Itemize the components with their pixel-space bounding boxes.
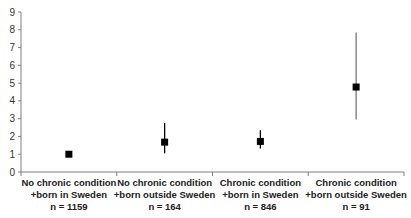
y-tick-label: 5 <box>9 78 15 89</box>
svg-text:n = 164: n = 164 <box>148 201 181 212</box>
y-tick-label: 6 <box>9 60 15 71</box>
y-tick-label: 0 <box>9 167 15 178</box>
y-tick-label: 9 <box>9 7 15 18</box>
y-tick-label: 1 <box>9 149 15 160</box>
svg-text:n = 846: n = 846 <box>244 201 276 212</box>
svg-text:Chronic condition: Chronic condition <box>315 177 396 188</box>
y-tick-label: 8 <box>9 24 15 35</box>
svg-text:+born outside Sweden: +born outside Sweden <box>305 189 407 200</box>
x-category-label: No chronic condition+born outside Sweden… <box>114 177 216 212</box>
svg-text:+born in Sweden: +born in Sweden <box>222 189 298 200</box>
data-point <box>161 123 168 153</box>
svg-text:No chronic condition: No chronic condition <box>117 177 212 188</box>
svg-text:+born outside Sweden: +born outside Sweden <box>114 189 216 200</box>
point-marker <box>161 139 168 146</box>
svg-text:Chronic condition: Chronic condition <box>220 177 301 188</box>
x-axis <box>21 172 404 176</box>
data-point <box>257 130 264 148</box>
error-bar-chart: 0123456789 No chronic condition+born in … <box>0 0 411 218</box>
point-marker <box>257 138 264 145</box>
x-axis-labels: No chronic condition+born in Swedenn = 1… <box>21 177 407 212</box>
x-category-label: No chronic condition+born in Swedenn = 1… <box>21 177 116 212</box>
y-tick-label: 2 <box>9 131 15 142</box>
data-point <box>65 151 72 158</box>
y-tick-label: 7 <box>9 42 15 53</box>
y-tick-label: 4 <box>9 95 15 106</box>
y-tick-label: 3 <box>9 113 15 124</box>
point-marker <box>65 151 72 158</box>
data-points <box>65 32 359 157</box>
svg-text:n = 1159: n = 1159 <box>50 201 87 212</box>
x-category-label: Chronic condition+born in Swedenn = 846 <box>220 177 301 212</box>
svg-text:+born in Sweden: +born in Sweden <box>31 189 107 200</box>
svg-text:n = 91: n = 91 <box>343 201 371 212</box>
data-point <box>353 32 360 119</box>
point-marker <box>353 84 360 91</box>
svg-text:No chronic condition: No chronic condition <box>21 177 116 188</box>
x-category-label: Chronic condition+born outside Swedenn =… <box>305 177 407 212</box>
y-axis: 0123456789 <box>9 7 21 178</box>
